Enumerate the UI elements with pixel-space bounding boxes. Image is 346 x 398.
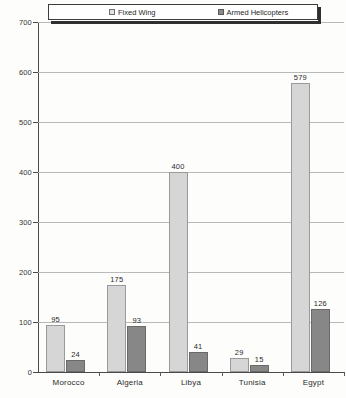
x-axis-label-egypt: Egypt [283,378,344,387]
x-axis-label-tunisia: Tunisia [222,378,283,387]
bars-layer: 952417593400412915579126 [38,22,344,372]
x-tick-5 [344,372,345,376]
legend-shadow-right [318,7,321,24]
legend-item-armed-helicopters: Armed Helicopters [218,8,289,17]
bar-tunisia-armed-helicopters [250,365,269,373]
legend-label-armed-helicopters: Armed Helicopters [227,8,289,17]
y-axis-label-0: 0 [2,368,32,377]
bar-morocco-armed-helicopters [66,360,85,372]
legend-shadow [51,21,321,24]
legend-item-fixed-wing: Fixed Wing [109,8,156,17]
bar-egypt-fixed-wing [291,83,310,373]
x-axis-label-libya: Libya [160,378,221,387]
gridline-0 [38,372,344,373]
x-axis-label-morocco: Morocco [38,378,99,387]
x-tick-2 [160,372,161,376]
value-label-morocco-fixed-wing: 95 [40,315,71,324]
bar-algeria-armed-helicopters [127,326,146,373]
value-label-morocco-armed-helicopters: 24 [60,350,91,359]
value-label-egypt-fixed-wing: 579 [285,73,316,82]
value-label-tunisia-armed-helicopters: 15 [244,355,275,364]
value-label-algeria-armed-helicopters: 93 [121,316,152,325]
value-label-libya-armed-helicopters: 41 [183,342,214,351]
bar-chart: Fixed Wing Armed Helicopters 01002003004… [0,0,346,398]
bar-egypt-armed-helicopters [311,309,330,372]
legend-swatch-fixed-wing-icon [109,9,115,15]
legend-swatch-armed-helicopters-icon [218,9,224,15]
x-axis-label-algeria: Algeria [99,378,160,387]
y-axis-label-200: 200 [2,268,32,277]
legend-label-fixed-wing: Fixed Wing [118,8,156,17]
y-axis-label-100: 100 [2,318,32,327]
y-axis-label-400: 400 [2,168,32,177]
value-label-libya-fixed-wing: 400 [163,162,194,171]
value-label-egypt-armed-helicopters: 126 [305,299,336,308]
bar-algeria-fixed-wing [107,285,126,373]
x-tick-3 [222,372,223,376]
y-axis-label-300: 300 [2,218,32,227]
x-tick-4 [283,372,284,376]
y-axis-label-500: 500 [2,118,32,127]
bar-morocco-fixed-wing [46,325,65,373]
bar-libya-armed-helicopters [189,352,208,373]
y-axis-label-600: 600 [2,68,32,77]
chart-legend: Fixed Wing Armed Helicopters [48,4,318,20]
y-axis-label-700: 700 [2,18,32,27]
y-tick-0 [33,372,38,373]
x-tick-1 [99,372,100,376]
value-label-algeria-fixed-wing: 175 [101,275,132,284]
